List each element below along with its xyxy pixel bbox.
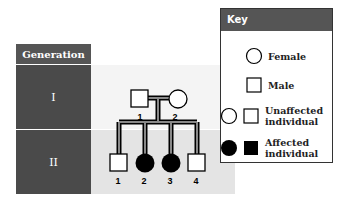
label-II-2: 2 — [141, 176, 146, 186]
square-icon — [246, 77, 262, 93]
individual-II-3-female-affected — [162, 154, 181, 173]
filled-circle-square-icon — [219, 139, 261, 157]
individual-I-2-female — [169, 90, 187, 108]
circle-icon — [245, 47, 263, 65]
label-I-1: 1 — [137, 112, 142, 122]
key-title: Key — [221, 9, 332, 31]
open-circle-square-icon — [219, 107, 261, 125]
label-I-2: 2 — [172, 112, 177, 122]
label-II-1: 1 — [115, 176, 120, 186]
key-legend: Key Female Male Unaffectedindividual Aff… — [220, 8, 333, 163]
label-II-4: 4 — [193, 176, 198, 186]
individual-II-4-male — [188, 154, 205, 171]
key-item-male: Male — [246, 77, 294, 93]
key-label-male: Male — [268, 80, 294, 91]
label-II-3: 3 — [167, 176, 172, 186]
individual-I-1-male — [131, 90, 148, 107]
individual-II-1-male — [110, 154, 127, 171]
key-label-female: Female — [268, 51, 306, 62]
key-item-unaffected: Unaffectedindividual — [219, 105, 323, 127]
key-label-affected: Affectedindividual — [265, 137, 318, 159]
individual-II-2-female-affected — [136, 154, 155, 173]
key-item-female: Female — [245, 47, 306, 65]
key-item-affected: Affectedindividual — [219, 137, 318, 159]
key-label-unaffected: Unaffectedindividual — [265, 105, 323, 127]
